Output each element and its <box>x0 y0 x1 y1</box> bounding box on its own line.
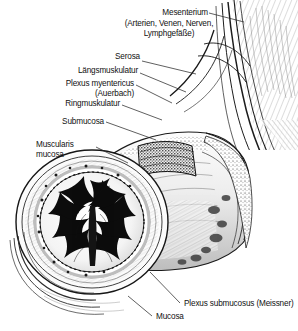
label-mesenterium-sub-2: Lymphgefäße) <box>110 29 228 39</box>
label-plexus-myentericus: Plexus myentericus <box>28 79 134 89</box>
label-muscularis-mucosa-1: Muscularis <box>36 140 126 150</box>
label-mucosa: Mucosa <box>156 312 236 322</box>
label-plexus-submucosus: Plexus submucosus (Meissner) <box>184 299 298 309</box>
label-mesenterium-sub-1: (Arterien, Venen, Nerven, <box>110 19 228 29</box>
label-serosa: Serosa <box>62 52 140 62</box>
label-submucosa: Submucosa <box>14 117 104 127</box>
intestine-cross-section-icon <box>0 0 298 331</box>
label-mesenterium: Mesenterium <box>108 8 208 18</box>
label-plexus-myentericus-sub: (Auerbach) <box>28 89 134 99</box>
label-ringmuskulatur: Ringmuskulatur <box>20 99 120 109</box>
label-muscularis-mucosa-2: mucosa <box>36 150 126 160</box>
label-laengsmuskulatur: Längsmuskulatur <box>40 66 138 76</box>
anatomical-figure: Mesenterium (Arterien, Venen, Nerven, Ly… <box>0 0 298 331</box>
